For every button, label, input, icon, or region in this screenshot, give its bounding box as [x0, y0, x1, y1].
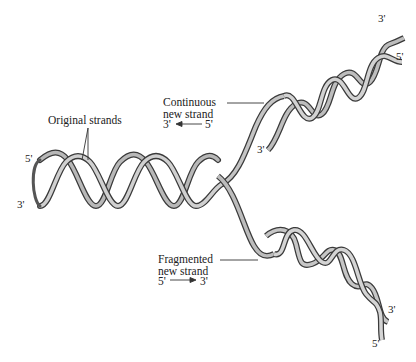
parent-5-prime-end: 5': [25, 152, 32, 164]
lagging-fork-strand: [218, 176, 274, 256]
fragmented-to-label: 3': [200, 275, 208, 288]
dna-replication-diagram: Original strands Continuous new strand 3…: [0, 0, 416, 362]
upper-inner-3-prime-end: 3': [257, 143, 264, 155]
upper-3-prime-end: 3': [378, 12, 385, 24]
fragmented-from-label: 5': [158, 275, 166, 288]
lower-daughter-helix: [266, 230, 388, 340]
upper-5-prime-end: 5': [396, 50, 403, 62]
original-strands-label: Original strands: [48, 114, 122, 127]
parent-double-helix: [33, 153, 222, 207]
parent-3-prime-end: 3': [17, 198, 24, 210]
upper-daughter-helix: [268, 38, 404, 150]
lower-5-prime-end: 5': [372, 337, 379, 349]
helix-graphic: [0, 0, 416, 362]
lower-3-prime-end: 3': [388, 303, 395, 315]
continuous-to-label: 5': [205, 118, 213, 131]
continuous-from-label: 3': [163, 118, 171, 131]
